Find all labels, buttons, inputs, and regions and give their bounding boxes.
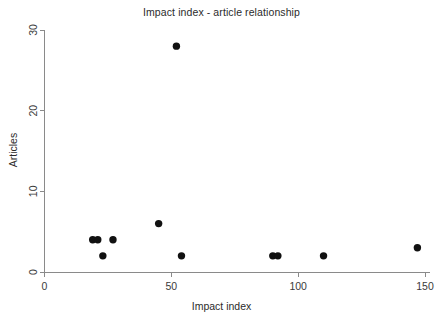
y-axis-title: Articles xyxy=(7,133,19,167)
data-point xyxy=(94,236,101,243)
data-point xyxy=(414,244,421,251)
x-tick-label: 100 xyxy=(289,280,307,292)
y-axis: 0102030 xyxy=(27,24,44,275)
x-tick-label: 50 xyxy=(165,280,177,292)
y-tick-label: 0 xyxy=(27,269,39,275)
data-point xyxy=(274,252,281,259)
x-axis-tick-labels: 050100150 xyxy=(42,280,434,292)
data-points-layer xyxy=(89,42,421,259)
data-point xyxy=(173,42,180,49)
data-point xyxy=(178,252,185,259)
y-axis-tick-labels: 0102030 xyxy=(27,24,39,275)
scatter-plot-figure: Impact index - article relationship 0501… xyxy=(0,0,443,322)
y-tick-label: 20 xyxy=(27,105,39,117)
y-tick-label: 30 xyxy=(27,24,39,36)
x-axis-ticks xyxy=(45,272,426,277)
x-axis-title: Impact index xyxy=(192,300,252,312)
data-point xyxy=(320,252,327,259)
x-tick-label: 0 xyxy=(42,280,48,292)
y-tick-label: 10 xyxy=(27,185,39,197)
y-axis-ticks xyxy=(40,30,45,272)
data-point xyxy=(155,220,162,227)
data-point xyxy=(99,252,106,259)
data-point xyxy=(109,236,116,243)
x-tick-label: 150 xyxy=(416,280,434,292)
x-axis: 050100150 xyxy=(42,272,434,292)
plot-canvas: 050100150 0102030 Impact index Articles xyxy=(0,0,443,322)
